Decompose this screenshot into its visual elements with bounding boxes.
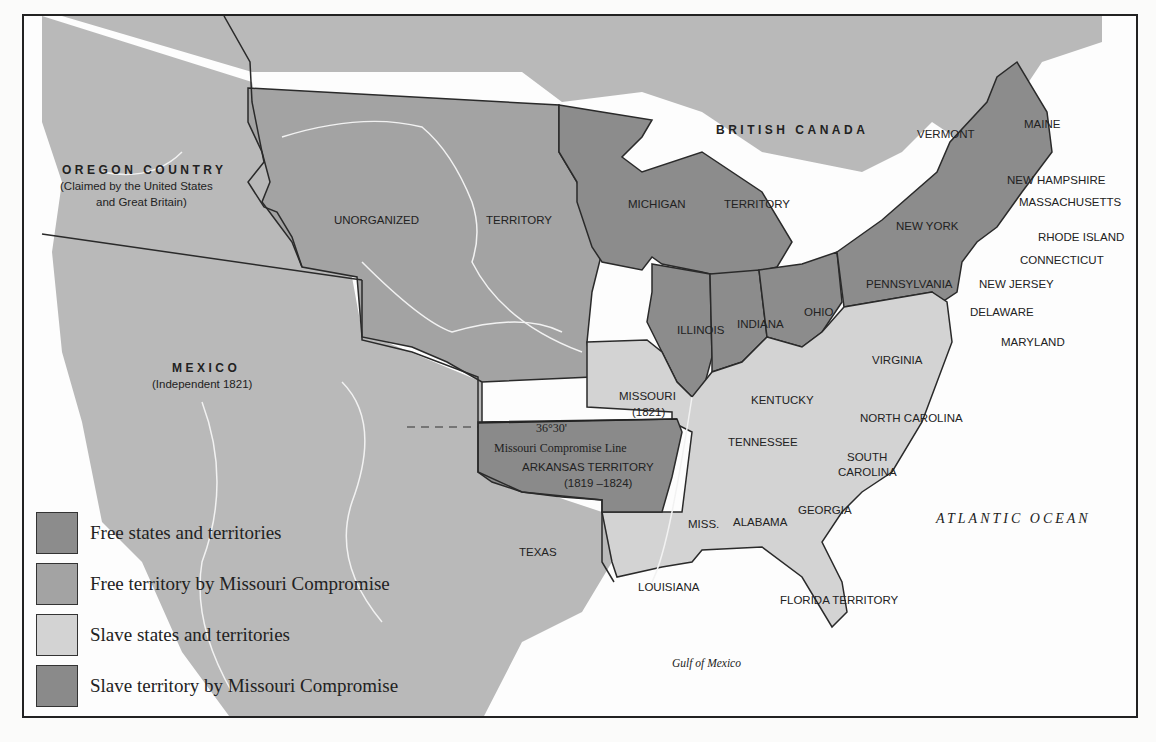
- label-mexico: MEXICO: [172, 362, 240, 376]
- label-mexico-note: (Independent 1821): [152, 378, 252, 391]
- label-missouri: MISSOURI: [619, 390, 676, 403]
- label-unorganized: UNORGANIZED: [334, 214, 419, 227]
- label-massachusetts: MASSACHUSETTS: [1019, 196, 1121, 209]
- legend-item-free-states: Free states and territories: [36, 511, 398, 555]
- label-arkansas-territory: ARKANSAS TERRITORY: [522, 461, 654, 474]
- label-ohio: OHIO: [804, 306, 833, 319]
- label-tennessee: TENNESSEE: [728, 436, 798, 449]
- label-delaware: DELAWARE: [970, 306, 1034, 319]
- label-mississippi: MISS.: [688, 518, 719, 531]
- label-oregon-country: OREGON COUNTRY: [62, 164, 227, 178]
- label-florida-territory: FLORIDA TERRITORY: [780, 594, 898, 607]
- label-new-york: NEW YORK: [896, 220, 958, 233]
- label-alabama: ALABAMA: [733, 516, 787, 529]
- label-atlantic-ocean: ATLANTIC OCEAN: [936, 511, 1091, 527]
- label-british-canada: BRITISH CANADA: [716, 124, 868, 138]
- label-maryland: MARYLAND: [1001, 336, 1065, 349]
- label-michigan: MICHIGAN: [628, 198, 686, 211]
- label-new-hampshire: NEW HAMPSHIRE: [1007, 174, 1105, 187]
- label-north-carolina: NORTH CAROLINA: [860, 412, 963, 425]
- label-vermont: VERMONT: [917, 128, 975, 141]
- legend: Free states and territories Free territo…: [36, 511, 398, 715]
- map-frame: BRITISH CANADA OREGON COUNTRY (Claimed b…: [22, 14, 1138, 718]
- label-gulf-of-mexico: Gulf of Mexico: [672, 657, 741, 670]
- label-latitude: 36°30': [536, 422, 567, 436]
- label-maine: MAINE: [1024, 118, 1060, 131]
- label-indiana: INDIANA: [737, 318, 784, 331]
- swatch-slave-territory-mc: [36, 665, 78, 707]
- label-kentucky: KENTUCKY: [751, 394, 814, 407]
- swatch-free-states: [36, 512, 78, 554]
- label-illinois: ILLINOIS: [677, 324, 724, 337]
- label-oregon-note-2: and Great Britain): [96, 196, 187, 209]
- label-michigan-territory: TERRITORY: [724, 198, 790, 211]
- legend-item-free-territory-mc: Free territory by Missouri Compromise: [36, 562, 398, 606]
- label-oregon-note-1: (Claimed by the United States: [60, 180, 213, 193]
- label-virginia: VIRGINIA: [872, 354, 922, 367]
- legend-label: Free territory by Missouri Compromise: [90, 573, 390, 595]
- legend-label: Free states and territories: [90, 522, 282, 544]
- legend-label: Slave territory by Missouri Compromise: [90, 675, 398, 697]
- legend-label: Slave states and territories: [90, 624, 290, 646]
- label-pennsylvania: PENNSYLVANIA: [866, 278, 953, 291]
- label-rhode-island: RHODE ISLAND: [1038, 231, 1124, 244]
- label-new-jersey: NEW JERSEY: [979, 278, 1054, 291]
- label-connecticut: CONNECTICUT: [1020, 254, 1104, 267]
- swatch-free-territory-mc: [36, 563, 78, 605]
- label-south-carolina-1: SOUTH: [847, 451, 887, 464]
- label-louisiana: LOUISIANA: [638, 581, 699, 594]
- label-south-carolina-2: CAROLINA: [838, 466, 897, 479]
- label-unorganized-territory: TERRITORY: [486, 214, 552, 227]
- label-compromise-line: Missouri Compromise Line: [494, 442, 627, 456]
- swatch-slave-states: [36, 614, 78, 656]
- legend-item-slave-territory-mc: Slave territory by Missouri Compromise: [36, 664, 398, 708]
- label-missouri-year: (1821): [632, 406, 665, 419]
- label-texas: TEXAS: [519, 546, 557, 559]
- label-georgia: GEORGIA: [798, 504, 852, 517]
- label-arkansas-years: (1819 –1824): [564, 477, 632, 490]
- legend-item-slave-states: Slave states and territories: [36, 613, 398, 657]
